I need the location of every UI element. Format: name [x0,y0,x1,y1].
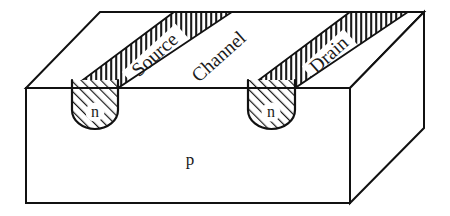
mosfet-figure: Source Channel Drain n n p [0,0,450,216]
substrate-label: p [186,150,195,169]
mosfet-diagram-canvas: Source Channel Drain n n p [0,0,450,216]
n-well-left-label: n [91,103,99,120]
n-well-right-label: n [267,103,275,120]
